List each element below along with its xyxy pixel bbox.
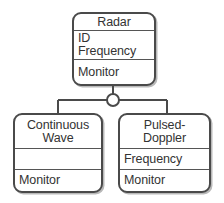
attributes-compartment-continuous-wave <box>15 148 101 169</box>
class-name-radar: Radar <box>94 16 134 29</box>
class-name-compartment-pulsed-doppler: Pulsed- Doppler <box>120 115 209 148</box>
class-name-continuous-wave-line2: Wave <box>39 132 76 145</box>
class-name-compartment-continuous-wave: Continuous Wave <box>15 115 101 148</box>
class-box-radar[interactable]: Radar ID Frequency Monitor <box>72 12 156 86</box>
generalization-junction-circle-icon <box>107 94 119 106</box>
class-name-compartment-radar: Radar <box>74 14 154 30</box>
attribute-item: Frequency <box>120 153 182 166</box>
attribute-item: Frequency <box>74 45 136 58</box>
class-box-continuous-wave[interactable]: Continuous Wave Monitor <box>13 113 103 193</box>
operation-item: Monitor <box>74 66 119 79</box>
class-name-pulsed-doppler-line1: Pulsed- <box>141 119 189 132</box>
operations-compartment-radar: Monitor <box>74 59 154 84</box>
class-name-continuous-wave-line1: Continuous <box>24 119 92 132</box>
uml-class-diagram: Radar ID Frequency Monitor Continuous Wa… <box>0 0 224 203</box>
operations-compartment-pulsed-doppler: Monitor <box>120 169 209 191</box>
attributes-compartment-radar: ID Frequency <box>74 30 154 59</box>
operations-compartment-continuous-wave: Monitor <box>15 169 101 191</box>
operation-item: Monitor <box>15 174 60 187</box>
attributes-compartment-pulsed-doppler: Frequency <box>120 148 209 169</box>
class-name-pulsed-doppler-line2: Doppler <box>140 132 189 145</box>
class-box-pulsed-doppler[interactable]: Pulsed- Doppler Frequency Monitor <box>118 113 211 193</box>
operation-item: Monitor <box>120 174 165 187</box>
